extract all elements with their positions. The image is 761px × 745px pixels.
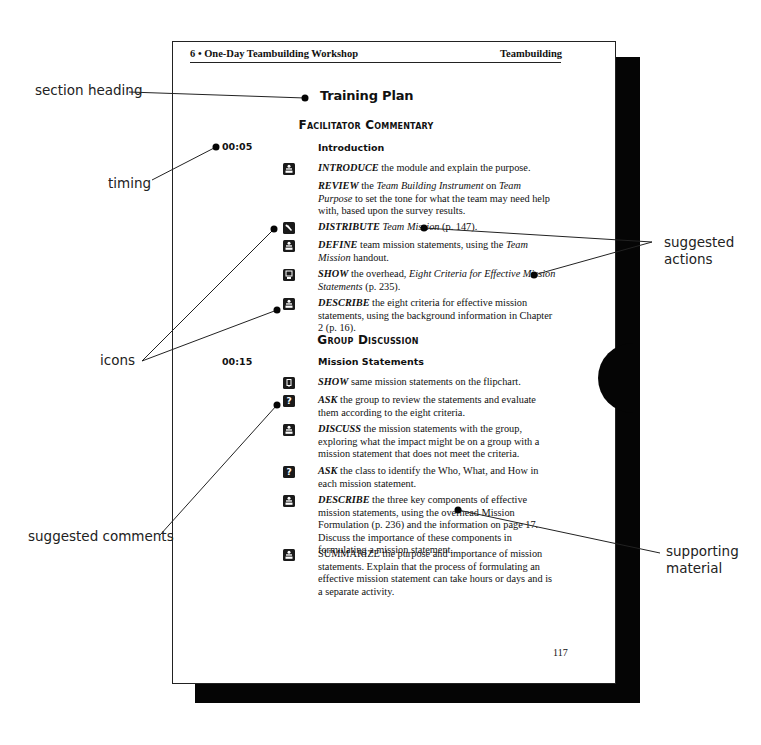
callout-section-heading: section heading xyxy=(35,82,143,99)
callout-supporting-material: supporting material xyxy=(666,543,739,577)
callout-leader-lines xyxy=(0,0,761,745)
callout-suggested-actions: suggested actions xyxy=(664,234,734,268)
callout-suggested-comments: suggested comments xyxy=(28,528,174,545)
callout-icons: icons xyxy=(100,352,135,369)
callout-timing: timing xyxy=(108,175,151,192)
